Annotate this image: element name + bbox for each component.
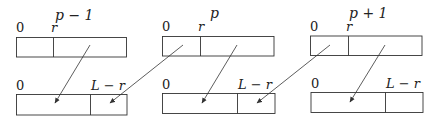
bottom-row-box bbox=[17, 95, 128, 116]
top-row-box bbox=[17, 38, 127, 58]
bottom-split-label: L − r bbox=[90, 78, 126, 93]
top-start-label: 0 bbox=[310, 19, 318, 34]
block-title: p + 1 bbox=[349, 5, 388, 21]
diagram-canvas: p − 1 0 r 0 L − r p 0 r 0 L − r p + 1 0 … bbox=[0, 0, 439, 121]
block-p: p 0 r 0 L − r bbox=[162, 5, 275, 114]
bottom-row-box bbox=[163, 94, 276, 114]
block-title: p bbox=[210, 5, 219, 21]
bottom-start-label: 0 bbox=[311, 76, 319, 91]
top-start-label: 0 bbox=[162, 19, 170, 34]
top-split-label: r bbox=[51, 20, 58, 35]
top-split-label: r bbox=[198, 19, 205, 34]
block-title: p − 1 bbox=[55, 7, 94, 23]
top-row-box bbox=[311, 36, 423, 56]
bottom-row-box bbox=[311, 93, 423, 113]
block-p-minus-1: p − 1 0 r 0 L − r bbox=[16, 7, 127, 115]
bottom-split-label: L − r bbox=[385, 76, 421, 91]
top-start-label: 0 bbox=[16, 20, 24, 35]
bottom-start-label: 0 bbox=[16, 78, 24, 93]
top-row-box bbox=[163, 37, 275, 57]
top-split-label: r bbox=[346, 19, 353, 34]
bottom-start-label: 0 bbox=[162, 77, 170, 92]
bottom-split-label: L − r bbox=[237, 77, 273, 92]
block-p-plus-1: p + 1 0 r 0 L − r bbox=[310, 5, 423, 113]
